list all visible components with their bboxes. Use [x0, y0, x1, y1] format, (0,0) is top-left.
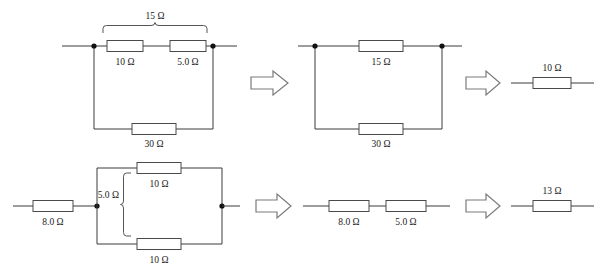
arrow-bottom-2	[466, 194, 500, 218]
brace-bot1-parallel	[121, 173, 132, 236]
resistor-bot1-8ohm	[33, 201, 73, 212]
top-step-2-circuit: 15 Ω 30 Ω	[298, 41, 462, 150]
label-top1-r30: 30 Ω	[145, 139, 164, 149]
resistor-top3-10ohm	[533, 78, 571, 89]
resistor-bot2-5ohm	[386, 201, 426, 212]
label-bot2-r5: 5.0 Ω	[395, 217, 416, 227]
resistor-top2-30ohm	[359, 124, 403, 135]
resistor-top2-15ohm	[359, 41, 403, 52]
resistor-top1-5ohm	[170, 41, 206, 52]
arrow-bottom-1	[256, 194, 291, 218]
label-bot1-brace-parallel: 5.0 Ω	[98, 190, 119, 200]
node-top2-left	[312, 43, 317, 48]
label-bot1-r10-top: 10 Ω	[150, 179, 169, 189]
bottom-step-3-circuit: 13 Ω	[511, 186, 594, 212]
top-step-1-circuit: 15 Ω 10 Ω 5.0 Ω 30 Ω	[62, 11, 237, 149]
node-top1-left	[91, 43, 96, 48]
right-block-arrow-icon	[251, 71, 288, 95]
label-top2-r30: 30 Ω	[372, 139, 391, 149]
circuit-reduction-diagram: 15 Ω 10 Ω 5.0 Ω 30 Ω 15 Ω 30 Ω	[0, 0, 605, 273]
resistor-top1-30ohm	[132, 124, 176, 135]
label-bot3-result: 13 Ω	[543, 186, 562, 196]
node-top1-right	[210, 43, 215, 48]
arrow-top-2	[466, 71, 500, 95]
right-block-arrow-icon	[466, 194, 500, 218]
label-top2-r15: 15 Ω	[372, 57, 391, 67]
resistor-top1-10ohm	[107, 41, 143, 52]
resistor-bot2-8ohm	[329, 201, 369, 212]
label-bot2-r8: 8.0 Ω	[338, 217, 359, 227]
circuit-svg-canvas: 15 Ω 10 Ω 5.0 Ω 30 Ω 15 Ω 30 Ω	[0, 0, 605, 273]
top-step-3-circuit: 10 Ω	[511, 63, 594, 89]
node-top2-right	[439, 43, 444, 48]
resistor-bot3-13ohm	[533, 201, 571, 212]
label-top1-r10: 10 Ω	[116, 57, 135, 67]
arrow-top-1	[251, 71, 288, 95]
label-bot1-r8: 8.0 Ω	[42, 217, 63, 227]
bottom-step-1-circuit: 8.0 Ω 5.0 Ω 10 Ω 10 Ω	[13, 163, 240, 266]
label-top3-result: 10 Ω	[543, 63, 562, 73]
bottom-step-2-circuit: 8.0 Ω 5.0 Ω	[303, 201, 450, 228]
right-block-arrow-icon	[466, 71, 500, 95]
label-bot1-r10-bottom: 10 Ω	[150, 255, 169, 265]
brace-top1-15ohm	[103, 23, 207, 34]
label-top1-r5: 5.0 Ω	[177, 57, 198, 67]
resistor-bot1-10ohm-top	[137, 163, 181, 174]
right-block-arrow-icon	[256, 194, 291, 218]
label-top1-brace-total: 15 Ω	[146, 11, 165, 21]
resistor-bot1-10ohm-bottom	[137, 239, 181, 250]
